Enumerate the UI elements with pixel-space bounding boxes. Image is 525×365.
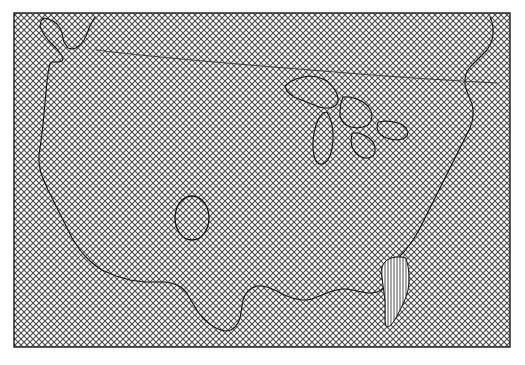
map-canvas bbox=[0, 0, 525, 365]
map-figure bbox=[0, 0, 525, 365]
map-frame-background bbox=[14, 13, 510, 347]
